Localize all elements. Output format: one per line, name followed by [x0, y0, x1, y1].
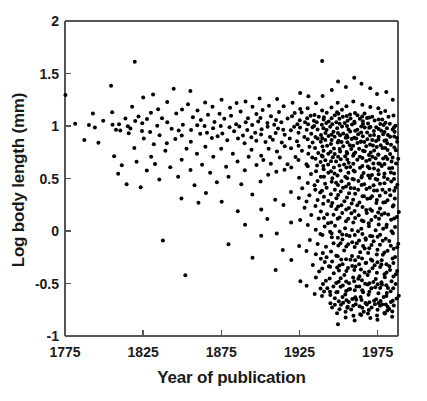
data-point [267, 147, 271, 151]
data-point [365, 137, 369, 141]
data-point [227, 175, 231, 179]
data-point [296, 158, 300, 162]
data-point [308, 238, 312, 242]
data-point [396, 157, 400, 161]
data-point [375, 252, 379, 256]
data-point [261, 108, 265, 112]
data-point [216, 134, 220, 138]
data-point [368, 186, 372, 190]
data-point [340, 140, 344, 144]
data-point [189, 168, 193, 172]
x-tick-label: 1975 [348, 344, 408, 360]
data-point [220, 200, 224, 204]
data-point [265, 217, 269, 221]
data-point [378, 194, 382, 198]
data-point [329, 106, 333, 110]
data-point [382, 211, 386, 215]
data-point [309, 114, 313, 118]
data-point [210, 105, 214, 109]
data-point [222, 117, 226, 121]
data-point [330, 116, 334, 120]
data-point [375, 92, 379, 96]
data-point [378, 206, 382, 210]
data-point [82, 138, 86, 142]
data-point [376, 153, 380, 157]
data-point [382, 175, 386, 179]
data-point [319, 257, 323, 261]
data-point [347, 300, 351, 304]
data-point [320, 233, 324, 237]
data-point [256, 119, 260, 123]
data-point [314, 228, 318, 232]
data-point [313, 183, 317, 187]
data-point [352, 268, 356, 272]
data-point [353, 209, 357, 213]
data-point [336, 322, 340, 326]
data-point [306, 223, 310, 227]
data-point [357, 147, 361, 151]
data-point [392, 177, 396, 181]
data-point [274, 118, 278, 122]
data-point [347, 161, 351, 165]
data-point [344, 316, 348, 320]
data-point [203, 124, 207, 128]
data-point [141, 95, 145, 99]
data-point [346, 217, 350, 221]
data-point [372, 166, 376, 170]
data-point [340, 237, 344, 241]
data-point [326, 199, 330, 203]
data-point [351, 314, 355, 318]
data-point [348, 143, 352, 147]
data-point [274, 268, 278, 272]
data-point [379, 299, 383, 303]
data-point [180, 108, 184, 112]
data-point [325, 144, 329, 148]
data-point [337, 280, 341, 284]
data-point [125, 182, 129, 186]
data-point [323, 182, 327, 186]
data-point [359, 267, 363, 271]
data-point [372, 239, 376, 243]
data-point [297, 131, 301, 135]
data-point [351, 100, 355, 104]
x-tick-label: 1775 [35, 344, 95, 360]
data-point [101, 119, 105, 123]
data-point [330, 231, 334, 235]
data-point [367, 221, 371, 225]
data-point [342, 249, 346, 253]
data-point [332, 166, 336, 170]
data-point [316, 198, 320, 202]
data-point [259, 234, 263, 238]
data-point [333, 296, 337, 300]
data-point [343, 226, 347, 230]
data-point [149, 111, 153, 115]
data-point [218, 112, 222, 116]
data-point [173, 137, 177, 141]
data-point [151, 92, 155, 96]
data-point [376, 308, 380, 312]
data-point [289, 128, 293, 132]
data-point [378, 182, 382, 186]
data-point [367, 246, 371, 250]
data-point [367, 281, 371, 285]
data-point [355, 128, 359, 132]
data-point [327, 119, 331, 123]
data-point [387, 239, 391, 243]
data-point [329, 150, 333, 154]
data-point [353, 288, 357, 292]
data-point [373, 263, 377, 267]
data-point [339, 203, 343, 207]
data-point [348, 258, 352, 262]
data-point [170, 127, 174, 131]
data-point [336, 174, 340, 178]
data-point [346, 171, 350, 175]
data-point [161, 239, 165, 243]
data-point [325, 111, 329, 115]
data-point [349, 308, 353, 312]
data-point [109, 84, 113, 88]
data-point [339, 157, 343, 161]
data-point [344, 166, 348, 170]
data-point [397, 210, 401, 214]
data-point [360, 164, 364, 168]
data-point [325, 186, 329, 190]
